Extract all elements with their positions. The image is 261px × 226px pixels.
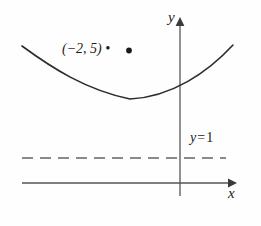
y-axis-arrowhead — [176, 17, 185, 26]
asymptote-label-equals: = — [196, 130, 206, 145]
point-marker-dot — [126, 48, 132, 54]
point-coordinate-label: (−2, 5) • — [62, 42, 110, 56]
y-axis — [176, 17, 185, 196]
parabola-curve — [22, 45, 233, 99]
figure-canvas — [0, 0, 261, 226]
asymptote-equation-label: y=1 — [190, 131, 213, 145]
x-axis — [22, 179, 237, 188]
y-axis-label: y — [168, 10, 175, 25]
asymptote-label-value: 1 — [206, 130, 213, 145]
x-axis-label: x — [228, 186, 235, 201]
math-figure-parabola: (−2, 5) • y x y=1 — [0, 0, 261, 226]
